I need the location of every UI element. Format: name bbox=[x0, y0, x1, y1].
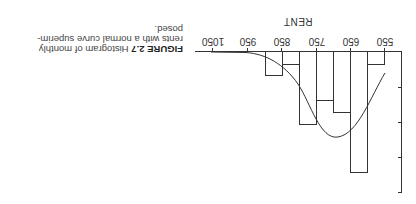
caption-label: FIGURE 2.7 bbox=[131, 44, 183, 55]
x-tick-label: 1050 bbox=[202, 36, 224, 47]
histogram-bars bbox=[266, 52, 385, 173]
x-tick-label: 650 bbox=[343, 36, 360, 47]
caption-line2: rents with a normal curve superim- bbox=[37, 34, 183, 45]
figure-caption: FIGURE 2.7 Histogram of monthly rents wi… bbox=[3, 24, 183, 54]
x-axis-title: RENT bbox=[283, 16, 312, 27]
x-tick-label: 550 bbox=[377, 36, 394, 47]
x-tick-label: 950 bbox=[240, 36, 257, 47]
caption-line1: Histogram of monthly bbox=[39, 44, 129, 55]
caption-line3: posed. bbox=[154, 24, 183, 35]
x-tick-label: 850 bbox=[274, 36, 291, 47]
x-tick-label: 750 bbox=[309, 36, 326, 47]
figure: 550 650 750 850 950 1050 RENT FIGURE 2.7… bbox=[0, 0, 416, 204]
